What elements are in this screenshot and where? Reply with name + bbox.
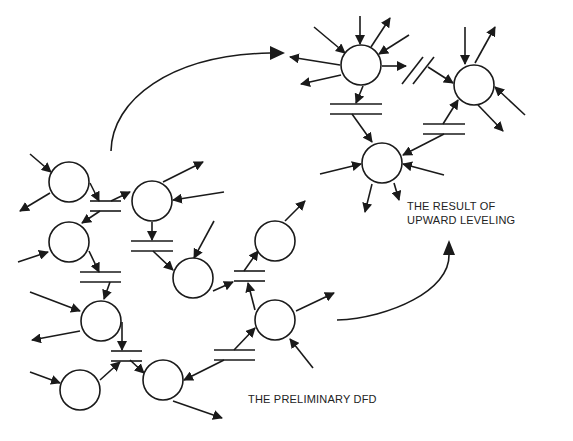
curve-up-to-result-arrow — [111, 53, 270, 151]
result-data-flow-arrow — [365, 184, 372, 212]
preliminary-data-flow-arrow — [20, 193, 50, 211]
preliminary-data-flow-arrow — [244, 251, 258, 271]
curve-preliminary-to-result-arrowhead-icon — [443, 240, 455, 255]
preliminary-data-flow-arrow — [285, 201, 305, 221]
preliminary-data-flow-arrow — [30, 292, 80, 311]
preliminary-data-flow-arrow — [30, 372, 60, 383]
preliminary-process-bubble-E — [81, 301, 121, 341]
preliminary-process-bubble-A — [49, 162, 89, 202]
preliminary-data-flow-arrow — [163, 162, 203, 182]
preliminary-data-flow-arrow — [290, 339, 313, 368]
result-data-flow-arrow — [478, 105, 503, 131]
result-caption-line1: THE RESULT OF — [407, 199, 515, 213]
preliminary-dfd-group — [18, 154, 334, 418]
preliminary-data-flow-arrow — [184, 360, 224, 380]
result-data-flow-arrow — [379, 35, 409, 54]
result-data-flow-arrow — [352, 114, 372, 142]
preliminary-process-bubble-I — [255, 300, 295, 340]
preliminary-data-flow-arrow — [194, 221, 214, 258]
preliminary-process-bubble-F — [143, 360, 183, 400]
result-data-flow-arrow — [403, 134, 444, 155]
result-data-flow-arrow — [495, 87, 525, 115]
curve-up-to-result-arrowhead-icon — [270, 46, 285, 60]
preliminary-data-flow-arrow — [100, 362, 120, 380]
preliminary-caption: THE PRELIMINARY DFD — [248, 392, 377, 406]
result-process-bubble-R2 — [454, 65, 494, 105]
preliminary-data-store-S5 — [234, 271, 265, 281]
result-data-flow-arrow — [443, 100, 458, 124]
result-data-flow-arrow — [320, 164, 361, 174]
preliminary-data-flow-arrow — [90, 183, 99, 201]
result-data-flow-arrow — [428, 67, 453, 83]
preliminary-process-bubble-C — [132, 181, 172, 221]
result-process-bubble-R3 — [362, 143, 402, 183]
result-data-flow-arrow — [371, 18, 390, 47]
preliminary-process-bubble-D — [173, 258, 213, 298]
leveling-arrows-group — [111, 46, 455, 320]
result-data-flow-arrow — [301, 75, 341, 84]
result-data-flow-arrow — [356, 86, 363, 103]
preliminary-data-flow-arrow — [30, 154, 51, 172]
result-data-store-RS1 — [330, 104, 382, 114]
result-data-flow-arrow — [394, 183, 399, 200]
preliminary-data-flow-arrow — [18, 252, 48, 262]
preliminary-data-flow-arrow — [89, 251, 99, 272]
result-caption: THE RESULT OF UPWARD LEVELING — [407, 199, 515, 227]
preliminary-data-store-S6 — [214, 350, 255, 360]
preliminary-data-flow-arrow — [213, 282, 233, 291]
preliminary-process-bubble-H — [255, 221, 295, 261]
preliminary-data-store-S1 — [90, 201, 121, 211]
preliminary-data-flow-arrow — [82, 211, 100, 223]
result-data-flow-arrow — [314, 27, 345, 53]
result-data-flow-arrow — [475, 27, 495, 63]
result-break-mark — [413, 57, 434, 84]
preliminary-data-flow-arrow — [32, 331, 80, 340]
preliminary-data-store-S2 — [80, 272, 121, 282]
result-data-flow-arrow — [290, 57, 340, 65]
preliminary-data-flow-arrow — [130, 360, 144, 373]
curve-preliminary-to-result-arrow — [337, 255, 449, 320]
preliminary-process-bubble-G — [60, 370, 100, 410]
result-dfd-group — [290, 16, 525, 212]
preliminary-data-store-S4 — [111, 351, 142, 361]
preliminary-process-bubble-B — [49, 222, 89, 262]
result-break-mark — [402, 57, 423, 84]
result-caption-line2: UPWARD LEVELING — [407, 213, 515, 227]
preliminary-data-flow-arrow — [111, 192, 130, 201]
preliminary-data-flow-arrow — [234, 328, 255, 350]
preliminary-data-flow-arrow — [173, 401, 222, 418]
preliminary-data-flow-arrow — [296, 293, 334, 311]
result-data-store-RS2 — [423, 124, 465, 134]
preliminary-data-flow-arrow — [173, 192, 224, 200]
result-data-flow-arrow — [403, 164, 444, 175]
result-process-bubble-R1 — [341, 45, 381, 85]
preliminary-data-flow-arrow — [248, 283, 255, 310]
preliminary-data-flow-arrow — [153, 251, 173, 270]
preliminary-data-flow-arrow — [104, 282, 110, 299]
preliminary-data-store-S3 — [131, 241, 173, 251]
